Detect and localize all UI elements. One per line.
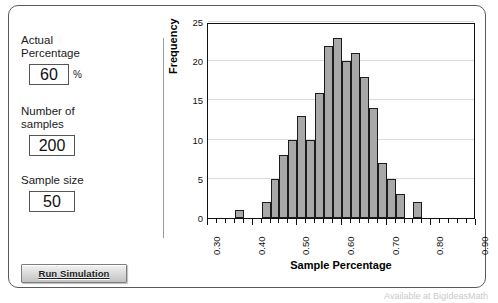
histogram-bar	[306, 140, 315, 218]
histogram-bar	[413, 202, 422, 218]
x-tick-minor	[395, 219, 396, 223]
x-tick-minor	[287, 219, 288, 223]
x-tick-major	[252, 219, 253, 225]
histogram-bar	[378, 163, 387, 218]
footer-credit: Available at BigIdeasMath	[0, 291, 498, 303]
x-tick-minor	[261, 219, 262, 223]
x-tick-label: 0.30	[211, 237, 222, 256]
x-tick-minor	[457, 219, 458, 223]
histogram-bar	[279, 155, 288, 218]
x-tick-minor	[439, 219, 440, 223]
x-tick-major	[207, 219, 208, 225]
simulation-applet: Actual Percentage 60 % Number of samples…	[8, 5, 486, 288]
sample-size-input[interactable]: 50	[29, 191, 75, 212]
x-tick-minor	[448, 219, 449, 223]
x-tick-minor	[243, 219, 244, 223]
gridline	[208, 21, 474, 22]
x-tick-minor	[305, 219, 306, 223]
x-tick-minor	[270, 219, 271, 223]
x-tick-minor	[278, 219, 279, 223]
x-tick-label: 0.40	[256, 237, 267, 256]
x-tick-minor	[314, 219, 315, 223]
x-tick-minor	[421, 219, 422, 223]
actual-percentage-input[interactable]: 60	[29, 64, 69, 85]
histogram-bar	[387, 179, 396, 218]
number-of-samples-input[interactable]: 200	[29, 135, 75, 156]
number-of-samples-group: Number of samples 200	[21, 105, 151, 156]
x-tick-label: 0.80	[434, 237, 445, 256]
x-tick-major	[475, 219, 476, 225]
x-tick-minor	[377, 219, 378, 223]
y-axis-ticks: 0510152025	[169, 16, 203, 226]
x-tick-minor	[412, 219, 413, 223]
number-of-samples-label: Number of samples	[21, 105, 151, 131]
histogram-bar	[351, 53, 360, 218]
histogram-bars	[208, 24, 474, 218]
percent-sign: %	[73, 69, 82, 80]
histogram-bar	[262, 202, 271, 218]
histogram-bar	[369, 108, 378, 218]
x-tick-label: 0.60	[345, 237, 356, 256]
histogram-bar	[342, 61, 351, 218]
run-simulation-button-label: Run Simulation	[38, 268, 109, 279]
controls-panel: Actual Percentage 60 % Number of samples…	[17, 16, 157, 274]
sample-size-label: Sample size	[21, 174, 151, 187]
x-axis-tick-labels: 0.300.400.500.600.700.800.90	[207, 227, 475, 259]
y-tick-label: 20	[173, 56, 203, 67]
actual-percentage-label-line2: Percentage	[21, 47, 151, 60]
y-tick-label: 25	[173, 17, 203, 28]
histogram-bar	[324, 46, 333, 218]
x-tick-minor	[359, 219, 360, 223]
x-axis-ticks	[207, 219, 475, 226]
x-tick-minor	[323, 219, 324, 223]
actual-percentage-group: Actual Percentage 60 %	[21, 34, 151, 85]
x-tick-minor	[216, 219, 217, 223]
x-tick-label: 0.90	[479, 237, 490, 256]
histogram-bar	[315, 93, 324, 218]
actual-percentage-label: Actual Percentage	[21, 34, 151, 60]
number-of-samples-label-line1: Number of	[21, 105, 151, 118]
x-axis-label: Sample Percentage	[207, 259, 475, 271]
y-tick-label: 15	[173, 95, 203, 106]
histogram-bar	[360, 77, 369, 218]
x-tick-label: 0.50	[300, 237, 311, 256]
x-tick-minor	[332, 219, 333, 223]
y-tick-label: 5	[173, 174, 203, 185]
x-tick-minor	[404, 219, 405, 223]
x-tick-minor	[466, 219, 467, 223]
y-tick-label: 0	[173, 213, 203, 224]
histogram-chart: Frequency 0510152025 0.300.400.500.600.7…	[169, 16, 479, 278]
x-tick-label: 0.70	[390, 237, 401, 256]
histogram-bar	[271, 179, 280, 218]
histogram-bar	[235, 210, 244, 218]
y-tick-label: 10	[173, 135, 203, 146]
x-tick-major	[296, 219, 297, 225]
actual-percentage-label-line1: Actual	[21, 34, 151, 47]
plot-frame	[207, 23, 475, 219]
histogram-bar	[396, 194, 405, 218]
plot-area	[207, 23, 475, 219]
x-tick-minor	[350, 219, 351, 223]
histogram-bar	[333, 38, 342, 218]
number-of-samples-label-line2: samples	[21, 118, 151, 131]
x-tick-major	[341, 219, 342, 225]
sample-size-group: Sample size 50	[21, 174, 151, 212]
run-simulation-button[interactable]: Run Simulation	[21, 264, 127, 283]
panel-divider	[163, 38, 164, 238]
x-tick-major	[430, 219, 431, 225]
histogram-bar	[288, 140, 297, 218]
x-tick-minor	[225, 219, 226, 223]
histogram-bar	[297, 116, 306, 218]
x-tick-minor	[368, 219, 369, 223]
x-tick-minor	[234, 219, 235, 223]
x-tick-major	[386, 219, 387, 225]
